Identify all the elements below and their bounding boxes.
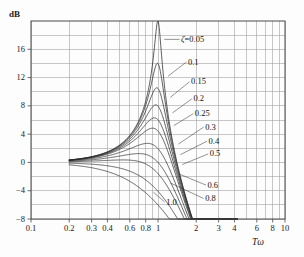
x-tick-label: 2 [184,223,208,233]
y-tick-label: 16 [3,44,25,54]
y-tick-label: 0 [3,157,25,167]
curve-label-1-0: 1.0 [166,197,177,207]
curve-label-0-15: 0.15 [191,76,206,86]
curve-label-0-1: 0.1 [188,57,199,67]
y-tick-label: 12 [3,72,25,82]
x-tick-label: 0.4 [95,223,119,233]
curve-label-0-6: 0.6 [207,180,218,190]
curve-label-0-5: 0.5 [210,148,221,158]
y-tick-label: 8 [3,100,25,110]
curve-label-0-25: 0.25 [195,108,210,118]
plot-canvas [0,0,304,257]
bode-magnitude-figure: dB Tω 1612840−4−8 0.10.20.30.40.60.81234… [0,0,304,257]
curve-label-0-3: 0.3 [205,122,216,132]
x-tick-label: 1 [146,223,170,233]
curve-label-0-4: 0.4 [209,136,220,146]
y-axis-unit-label: dB [9,9,20,19]
x-tick-label: 0.2 [57,223,81,233]
curve-label-0-05: ζ=0.05 [181,34,204,44]
y-tick-label: 4 [3,129,25,139]
x-tick-label: 10 [273,223,297,233]
tick-marks-layer [28,49,286,222]
curve-label-0-2: 0.2 [193,93,204,103]
x-tick-label: 4 [222,223,246,233]
y-tick-label: −8 [3,214,25,224]
x-axis-title: Tω [252,237,264,247]
curve-label-0-8: 0.8 [205,193,216,203]
y-tick-label: −4 [3,185,25,195]
x-tick-label: 0.1 [19,223,43,233]
